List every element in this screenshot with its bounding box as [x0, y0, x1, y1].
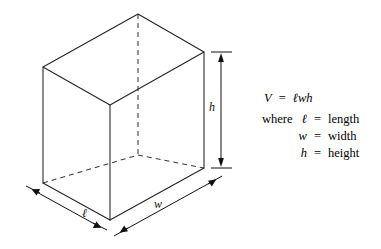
- definition-symbol-length: ℓ: [299, 112, 314, 129]
- definitions-table: where ℓ = length w = width h = height: [262, 112, 359, 163]
- definition-word-height: height: [328, 146, 359, 163]
- top-face-outline: [43, 14, 204, 105]
- length-dimension-group: [26, 186, 107, 230]
- definition-row-width: w = width: [262, 129, 359, 146]
- definition-word-width: width: [328, 129, 359, 146]
- bottom-front-edges-group: [43, 168, 204, 220]
- length-arrowhead-lower: [93, 222, 102, 228]
- volume-symbol: V: [264, 91, 272, 106]
- volume-formula-line: V = ℓwh: [264, 91, 359, 106]
- definition-symbol-height: h: [299, 146, 314, 163]
- definition-word-length: length: [328, 112, 359, 129]
- volume-expression: ℓwh: [293, 91, 313, 106]
- definition-row-height: h = height: [262, 146, 359, 163]
- height-arrowhead-down: [218, 158, 224, 167]
- volume-figure: h ℓ w V = ℓwh where ℓ = length w = wi: [0, 0, 381, 249]
- definition-equals-length: =: [314, 112, 328, 129]
- volume-formula-block: V = ℓwh where ℓ = length w = width: [262, 91, 359, 163]
- hidden-edges-group: [43, 14, 204, 183]
- volume-equals-sign: =: [279, 91, 286, 106]
- definition-equals-width: =: [314, 129, 328, 146]
- top-face-group: [43, 14, 204, 105]
- height-arrowhead-up: [218, 53, 224, 62]
- definition-row-length: where ℓ = length: [262, 112, 359, 129]
- width-dimension-group: [114, 176, 222, 236]
- where-spacer-2: [262, 146, 299, 163]
- definition-symbol-width: w: [299, 129, 314, 146]
- definition-equals-height: =: [314, 146, 328, 163]
- where-spacer: [262, 129, 299, 146]
- hidden-edge-bottom-back-left: [43, 155, 138, 183]
- length-dimension-label: ℓ: [82, 207, 87, 219]
- height-dimension-label: h: [209, 101, 215, 113]
- width-dimension-label: w: [154, 198, 162, 210]
- hidden-edge-bottom-back-right: [138, 155, 204, 168]
- vertical-edges-group: [43, 52, 204, 220]
- where-keyword: where: [262, 112, 299, 129]
